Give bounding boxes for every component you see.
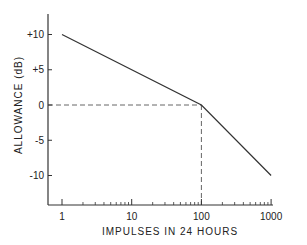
y-axis-title: ALLOWANCE (dB) <box>13 56 24 154</box>
data-series <box>62 35 271 176</box>
x-tick-label: 100 <box>193 211 210 222</box>
y-tick-label: +10 <box>27 29 44 40</box>
x-tick-label: 10 <box>126 211 138 222</box>
x-axis-ticks: 1101001000 <box>59 199 282 222</box>
x-axis-title: IMPULSES IN 24 HOURS <box>102 226 238 237</box>
y-tick-label: -10 <box>30 170 45 181</box>
reference-lines <box>48 105 201 205</box>
x-tick-label: 1 <box>59 211 65 222</box>
y-tick-label: -5 <box>35 135 44 146</box>
y-tick-label: +5 <box>33 64 45 75</box>
allowance-line <box>62 35 271 176</box>
allowance-chart: +10+50-5-10 1101001000 IMPULSES IN 24 HO… <box>0 0 307 245</box>
y-tick-label: 0 <box>38 100 44 111</box>
x-tick-label: 1000 <box>260 211 283 222</box>
axes <box>48 14 273 205</box>
